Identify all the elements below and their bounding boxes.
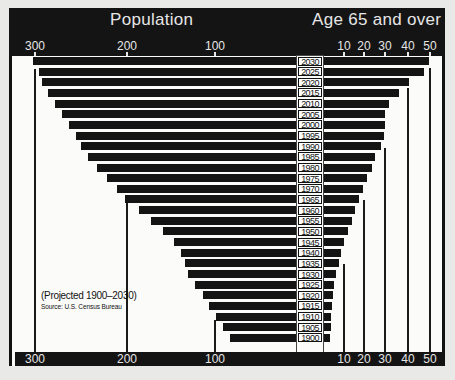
left-tick-label-top: 300 — [25, 39, 45, 53]
year-label: 1925 — [298, 280, 322, 289]
population-bar — [76, 132, 297, 140]
year-label: 1905 — [298, 323, 322, 332]
year-label: 2000 — [298, 120, 322, 129]
year-label: 1920 — [298, 291, 322, 300]
right-tick-label-bottom: 20 — [357, 352, 370, 366]
population-bar — [39, 68, 296, 76]
left-tick-mark — [126, 52, 128, 56]
age65-bar — [323, 313, 331, 321]
population-chart: Population Age 65 and over 3002001001020… — [0, 0, 455, 380]
age65-bar — [323, 121, 385, 129]
year-label: 1910 — [298, 312, 322, 321]
right-tick-mark — [384, 52, 386, 56]
population-bar — [185, 259, 296, 267]
population-bar — [209, 302, 296, 310]
population-bar — [223, 323, 296, 331]
year-label: 1970 — [298, 184, 322, 193]
age65-bar — [323, 100, 389, 108]
age65-bar — [323, 217, 352, 225]
left-tick-label-bottom: 200 — [117, 352, 137, 366]
right-tick-label-bottom: 30 — [378, 352, 391, 366]
right-tick-label-top: 10 — [337, 39, 350, 53]
population-title: Population — [110, 10, 193, 30]
age65-bar — [323, 68, 424, 76]
population-bar — [230, 334, 297, 342]
right-tick-label-top: 30 — [378, 39, 391, 53]
age65-bar — [323, 132, 384, 140]
year-label: 1930 — [298, 270, 322, 279]
right-tick-label-top: 40 — [401, 39, 414, 53]
year-label: 1985 — [298, 152, 322, 161]
year-label: 2005 — [298, 110, 322, 119]
population-bar — [195, 281, 296, 289]
age65-bar — [323, 110, 385, 118]
population-bar — [125, 195, 296, 203]
year-label: 2010 — [298, 99, 322, 108]
age65-bar — [323, 142, 381, 150]
year-label: 2015 — [298, 88, 322, 97]
population-bar — [174, 238, 297, 246]
year-label: 1955 — [298, 216, 322, 225]
reference-line-300 — [34, 69, 36, 352]
reference-line-50 — [429, 68, 431, 352]
reference-line-100 — [214, 320, 216, 352]
age65-bar — [323, 249, 341, 257]
age65-bar — [323, 89, 399, 97]
left-tick-mark — [34, 52, 36, 56]
year-label: 2030 — [298, 57, 322, 66]
age65-bar — [323, 78, 409, 86]
age65-bar — [323, 270, 336, 278]
right-tick-label-top: 50 — [423, 39, 436, 53]
population-bar — [97, 164, 296, 172]
age65-bar — [323, 281, 334, 289]
right-tick-label-bottom: 50 — [423, 352, 436, 366]
source-note: Source: U.S. Census Bureau — [41, 303, 136, 310]
right-tick-mark — [363, 52, 365, 56]
right-tick-label-bottom: 40 — [401, 352, 414, 366]
population-bar — [88, 153, 296, 161]
year-label: 1975 — [298, 174, 322, 183]
year-label: 1965 — [298, 195, 322, 204]
year-label: 1915 — [298, 301, 322, 310]
population-bar — [151, 217, 296, 225]
reference-line-30 — [384, 148, 386, 352]
right-tick-label-top: 20 — [357, 39, 370, 53]
population-bar — [216, 313, 297, 321]
population-bar — [139, 206, 297, 214]
year-label: 1900 — [298, 333, 322, 342]
age65-bar — [323, 238, 344, 246]
year-label: 1935 — [298, 259, 322, 268]
population-bar — [163, 227, 296, 235]
population-bar — [188, 270, 296, 278]
age65-bar — [323, 291, 333, 299]
year-label: 1990 — [298, 142, 322, 151]
chart-note: (Projected 1900–2030) Source: U.S. Censu… — [41, 290, 136, 310]
left-tick-label-top: 200 — [117, 39, 137, 53]
year-label: 1950 — [298, 227, 322, 236]
population-bar — [55, 100, 296, 108]
population-bar — [117, 185, 296, 193]
age65-bar — [323, 174, 367, 182]
year-label: 2020 — [298, 78, 322, 87]
age65-bar — [323, 164, 372, 172]
projection-note: (Projected 1900–2030) — [41, 290, 136, 301]
year-label: 2025 — [298, 67, 322, 76]
left-tick-label-bottom: 100 — [205, 352, 225, 366]
reference-line-20 — [363, 200, 365, 352]
year-label: 1995 — [298, 131, 322, 140]
right-tick-mark — [407, 52, 409, 56]
reference-line-10 — [343, 264, 345, 352]
age65-bar — [323, 206, 355, 214]
year-label: 1945 — [298, 238, 322, 247]
right-tick-mark — [343, 52, 345, 56]
right-tick-mark — [429, 52, 431, 56]
population-bar — [203, 291, 296, 299]
age65-bar — [323, 153, 375, 161]
population-bar — [81, 142, 296, 150]
right-tick-label-bottom: 10 — [337, 352, 350, 366]
left-tick-label-top: 100 — [205, 39, 225, 53]
reference-line-40 — [407, 88, 409, 352]
age65-bar — [323, 195, 359, 203]
left-tick-label-bottom: 300 — [25, 352, 45, 366]
year-label: 1980 — [298, 163, 322, 172]
